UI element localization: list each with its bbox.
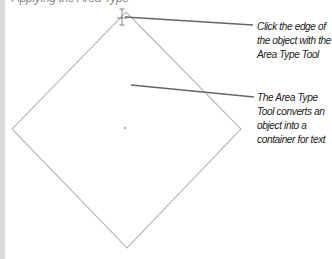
leader-line-2 [131,85,254,97]
diamond-object [12,12,241,248]
leader-line-1 [125,17,253,25]
center-point-icon [124,127,127,130]
callout-line: container for text [257,132,325,146]
callout-line: Tool converts an [257,104,325,118]
callout-line: object into a [257,118,325,132]
callout-line: Area Type Tool [257,47,331,61]
callout-click-edge: Click the edge of the object with the Ar… [257,19,331,61]
callout-line: The Area Type [257,90,325,104]
callout-line: Click the edge of [257,19,331,33]
callout-area-type-tool: The Area Type Tool converts an object in… [257,90,325,146]
callout-line: the object with the [257,33,331,47]
